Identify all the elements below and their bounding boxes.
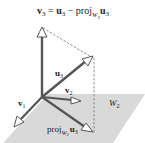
orthogonal-projection-diagram: v3 = u3 − projW2u3 u3 v2 v1 W2 projW2u3 (0, 0, 145, 143)
v2-label: v2 (65, 85, 73, 96)
equation-label: v3 = u3 − projW2u3 (37, 5, 109, 20)
v1-label: v1 (18, 98, 26, 109)
arrowhead-icon (82, 56, 93, 66)
dashed-v3-to-u3 (43, 28, 93, 58)
u3-label: u3 (55, 68, 63, 79)
arrowhead-icon (37, 27, 47, 37)
vector-v3 (37, 27, 47, 97)
